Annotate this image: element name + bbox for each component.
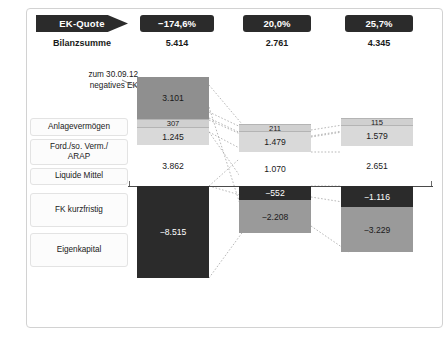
row-label-forderungen-line1: Ford./so. Verm./	[50, 142, 108, 152]
plot-area: 3.101 307 1.245 3.862 −8.515 211 1.479 1…	[128, 58, 433, 288]
annotation-negatives-ek: zum 30.09.12 negatives EK	[60, 70, 138, 91]
segment-2014-eigenkapital: −3.229	[341, 207, 413, 252]
segment-2012-forderungen: 1.245	[137, 128, 209, 145]
ek-quote-value-2012: −174,6%	[140, 15, 214, 32]
bilanzsumme-label: Bilanzsumme	[36, 36, 128, 50]
bilanzsumme-value-2014: 4.345	[345, 36, 413, 50]
segment-2014-fk-kurzfristig: −1.116	[341, 186, 413, 207]
segment-2013-liquide-mittel: 1.070	[239, 152, 311, 186]
segment-2014-liquide-mittel: 2.651	[341, 146, 413, 186]
row-label-anlagevermoegen: Anlagevermögen	[30, 118, 128, 136]
figure-caption	[22, 336, 442, 345]
segment-2014-anlagevermoegen: 115	[341, 118, 413, 126]
segment-2013-anlagevermoegen: 211	[239, 124, 311, 132]
row-label-fk-kurzfristig: FK kurzfristig	[30, 193, 128, 227]
bilanzsumme-value-2013: 2.761	[243, 36, 311, 50]
axis-tick-right	[431, 181, 432, 186]
segment-2013-fk-kurzfristig: −552	[239, 186, 311, 200]
row-label-forderungen-line2: ARAP	[68, 152, 90, 162]
segment-2012-liquide-mittel: 3.862	[137, 145, 209, 186]
segment-2012-eigenkapital: −8.515	[137, 186, 209, 278]
row-label-forderungen: Ford./so. Verm./ ARAP	[30, 139, 128, 165]
chart-page: EK-Quote Bilanzsumme −174,6% 20,0% 25,7%…	[0, 0, 447, 346]
ek-quote-value-2013: 20,0%	[243, 15, 311, 32]
segment-2012-anlagevermoegen: 307	[137, 119, 209, 128]
annotation-line-1: zum 30.09.12	[60, 70, 138, 81]
annotation-line-2: negatives EK	[60, 81, 138, 92]
segment-2014-forderungen: 1.579	[341, 126, 413, 146]
bilanzsumme-value-2012: 5.414	[140, 36, 214, 50]
ek-quote-value-2014: 25,7%	[345, 15, 413, 32]
axis-tick-left	[129, 181, 130, 186]
row-label-eigenkapital: Eigenkapital	[30, 233, 128, 267]
segment-2012-negatives-ek: 3.101	[137, 77, 209, 119]
row-label-liquide-mittel: Liquide Mittel	[30, 168, 128, 185]
segment-2013-forderungen: 1.479	[239, 132, 311, 152]
segment-2013-eigenkapital: −2.208	[239, 200, 311, 233]
